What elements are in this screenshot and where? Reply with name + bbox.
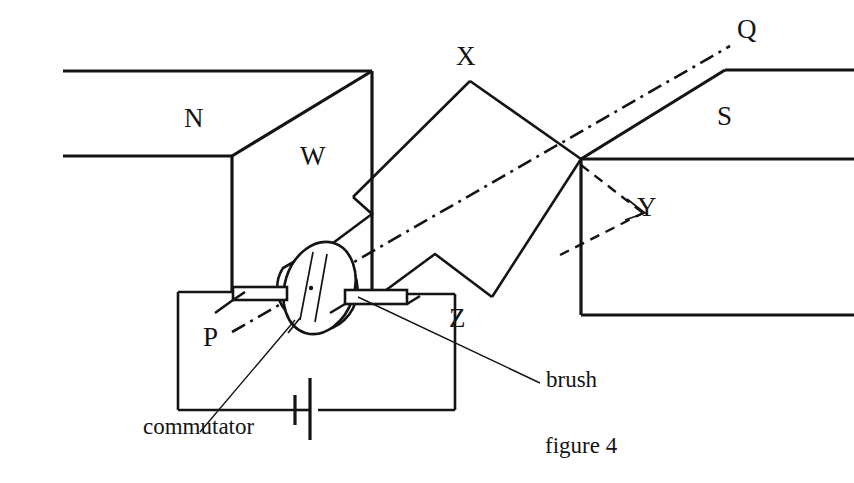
- brush-right-lead: [407, 296, 420, 304]
- label-commutator: commutator: [143, 415, 254, 438]
- coil-side-xy: [470, 81, 581, 159]
- coil-side-yz: [492, 159, 581, 297]
- figure-caption: figure 4: [545, 434, 617, 457]
- label-coil-vertex-z: Z: [449, 305, 466, 332]
- label-coil-vertex-x: X: [456, 43, 476, 70]
- hidden-edge-lower: [560, 213, 643, 255]
- commutator: [277, 242, 357, 334]
- brush-left-lead-lower: [215, 300, 233, 313]
- diagram-canvas: [0, 0, 854, 483]
- hidden-edge-upper: [581, 165, 643, 213]
- label-brush: brush: [546, 368, 597, 391]
- hidden-edge-y: [560, 165, 645, 255]
- annotation-leaders: [200, 297, 540, 432]
- coil-lead-w-zigzag: [333, 197, 372, 243]
- label-coil-vertex-y: Y: [637, 194, 657, 221]
- label-south-pole: S: [717, 103, 732, 130]
- brush-right: [345, 290, 407, 304]
- label-axis-p: P: [203, 324, 218, 351]
- label-axis-q: Q: [737, 16, 757, 43]
- label-coil-vertex-w: W: [300, 143, 325, 170]
- commutator-axis-dot: [309, 286, 313, 290]
- label-north-pole: N: [184, 105, 204, 132]
- figure-4-diagram: N S W X Y Z P Q commutator brush figure …: [0, 0, 854, 483]
- south-pole-perspective-edge: [581, 70, 725, 159]
